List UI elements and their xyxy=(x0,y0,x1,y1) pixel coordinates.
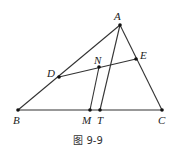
point-E xyxy=(134,57,138,61)
point-T xyxy=(98,108,102,112)
point-B xyxy=(16,108,20,112)
segment-NM xyxy=(90,67,99,110)
point-D xyxy=(57,75,61,79)
segment-AT xyxy=(100,25,120,110)
label-N: N xyxy=(93,54,102,66)
label-A: A xyxy=(113,10,121,22)
segments xyxy=(18,25,162,110)
label-M: M xyxy=(81,114,92,126)
vertices xyxy=(16,23,164,112)
label-T: T xyxy=(97,114,104,126)
label-D: D xyxy=(46,67,55,79)
point-C xyxy=(160,108,164,112)
label-C: C xyxy=(158,114,166,126)
label-E: E xyxy=(139,49,147,61)
geometry-diagram: A B C D E N M T 图 9-9 xyxy=(0,0,176,155)
point-M xyxy=(88,108,92,112)
segment-AC xyxy=(120,25,162,110)
segment-AB xyxy=(18,25,120,110)
point-A xyxy=(118,23,122,27)
figure-caption: 图 9-9 xyxy=(73,135,103,146)
label-B: B xyxy=(13,114,20,126)
